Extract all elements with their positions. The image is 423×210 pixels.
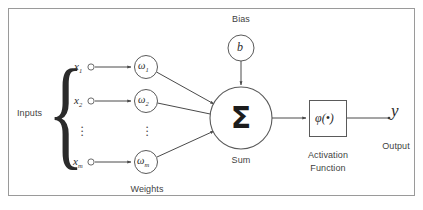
neuron-diagram: Bias b Inputs { x1 x2 xm ... ω1 ω2 ωm ..… [0, 0, 423, 210]
weight-ellipsis: ... [145, 122, 148, 134]
weight-subscript-1: 1 [145, 66, 148, 73]
weight-symbol-1: ω1 [138, 60, 149, 71]
inputs-label: Inputs [17, 108, 42, 119]
sum-symbol: Σ [231, 103, 252, 133]
input-symbol-2: x2 [74, 94, 82, 106]
weight-symbol-2: ω2 [138, 94, 149, 105]
sum-label: Sum [232, 155, 251, 166]
bias-label: Bias [232, 14, 250, 25]
input-terminal-2 [88, 98, 94, 104]
output-label: Output [382, 141, 410, 152]
input-symbol-m: xm [73, 155, 83, 167]
activation-label-line2: Function [310, 163, 345, 174]
weights-label: Weights [130, 184, 163, 195]
input-ellipsis: ... [80, 122, 83, 134]
input-symbol-1: x1 [74, 60, 82, 72]
activation-label-line1: Activation [308, 150, 348, 161]
input-subscript-2: 2 [79, 101, 82, 108]
activation-symbol: φ(•) [315, 111, 334, 126]
bias-symbol: b [237, 40, 243, 55]
input-terminal-1 [88, 64, 94, 70]
weight-symbol-m: ωm [137, 155, 149, 166]
weight-subscript-2: 2 [145, 100, 148, 107]
weight-subscript-m: m [144, 161, 149, 168]
input-subscript-1: 1 [79, 67, 82, 74]
input-terminal-m [88, 159, 94, 165]
input-subscript-m: m [78, 162, 83, 169]
output-symbol: y [391, 101, 399, 121]
